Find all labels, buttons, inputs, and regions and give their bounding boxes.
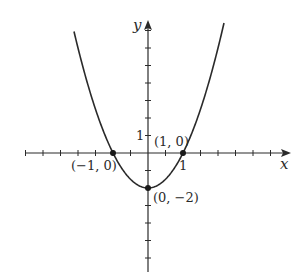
x-tick-label-1: 1 [179, 158, 187, 173]
x-axis [25, 149, 291, 157]
point-vertex-label: (0, −2) [153, 190, 199, 205]
y-axis [144, 20, 152, 272]
point-right-intercept [180, 150, 186, 156]
y-tick-label-1: 1 [136, 128, 144, 143]
point-vertex [145, 185, 151, 191]
point-left-label: (−1, 0) [71, 158, 117, 173]
x-axis-label: x [280, 155, 289, 173]
point-left-intercept [110, 150, 116, 156]
point-right-label: (1, 0) [154, 134, 189, 149]
y-axis-label: y [132, 16, 142, 34]
parabola-graph: x y 1 1 (1, 0) (−1, 0) (0, −2) [0, 0, 307, 276]
